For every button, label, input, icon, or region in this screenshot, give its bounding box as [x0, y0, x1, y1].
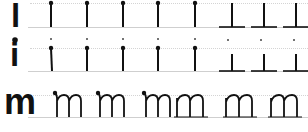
- next-row-dot: [0, 36, 308, 44]
- trace-l-start-dot: [191, 0, 201, 30]
- trace-m-plain: [223, 88, 263, 120]
- handwriting-worksheet: l i: [0, 0, 308, 132]
- trace-i-start-dot: [191, 44, 201, 74]
- trace-i-start-dot: [83, 44, 93, 74]
- trace-l-start-dot: [154, 0, 164, 30]
- trace-l-start-dot: [119, 0, 129, 30]
- trace-m-plain: [174, 88, 214, 120]
- trace-m-start-dot: [93, 88, 129, 120]
- model-letter-l: l: [11, 0, 20, 32]
- trace-m-plain: [268, 88, 308, 120]
- trace-l-start-dot: [47, 0, 57, 30]
- trace-i-baseline: [251, 44, 281, 74]
- trace-l-baseline: [283, 0, 308, 30]
- trace-l-baseline: [219, 0, 249, 30]
- trace-m-start-dot: [50, 88, 86, 120]
- row-letter-l: l: [0, 0, 308, 40]
- trace-i-start-dot: [47, 44, 57, 74]
- trace-m-start-dot: [139, 88, 175, 120]
- trace-i-baseline: [283, 44, 308, 74]
- trace-l-baseline: [251, 0, 281, 30]
- trace-i-start-dot: [119, 44, 129, 74]
- row-letter-i: i: [0, 44, 308, 84]
- model-letter-m: m: [4, 84, 36, 120]
- trace-l-start-dot: [83, 0, 93, 30]
- trace-i-start-dot: [154, 44, 164, 74]
- row-letter-m: m: [0, 88, 308, 132]
- model-letter-i: i: [10, 38, 19, 71]
- trace-i-baseline: [219, 44, 249, 74]
